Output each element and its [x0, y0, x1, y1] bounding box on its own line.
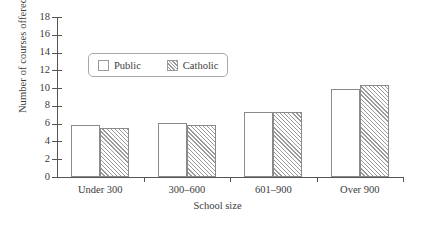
- bar-chart: Number of courses offered 02468101214161…: [0, 0, 435, 226]
- y-axis-line: [57, 17, 58, 178]
- y-axis-tick: [52, 141, 62, 142]
- bar-catholic-1: [187, 125, 216, 177]
- bar-catholic-3: [360, 85, 389, 177]
- bar-public-3: [331, 89, 360, 177]
- y-axis-tick: [52, 177, 62, 178]
- legend-label: Catholic: [183, 60, 219, 71]
- y-axis-tick: [52, 88, 62, 89]
- y-axis-tick-label: 4: [24, 134, 50, 148]
- y-axis-tick: [52, 17, 62, 18]
- y-axis-tick-label: 12: [24, 63, 50, 77]
- y-axis-tick: [52, 106, 62, 107]
- hatched-box-icon: [167, 60, 178, 71]
- y-axis-tick-label: 0: [24, 170, 50, 184]
- y-axis-tick-label: 10: [24, 81, 50, 95]
- y-axis-tick: [52, 159, 62, 160]
- x-axis-category-label: 300–600: [168, 184, 205, 195]
- x-axis-category-label: 601–900: [255, 184, 292, 195]
- x-axis-title: School size: [0, 200, 435, 211]
- empty-box-icon: [98, 60, 109, 71]
- x-axis-category-label: Over 900: [340, 184, 379, 195]
- y-axis-tick: [52, 35, 62, 36]
- y-axis-tick: [52, 124, 62, 125]
- bar-public-2: [244, 112, 273, 177]
- x-axis-tick: [230, 177, 231, 182]
- chart-legend: PublicCatholic: [88, 53, 228, 77]
- bar-catholic-0: [100, 128, 129, 177]
- x-axis-tick: [144, 177, 145, 182]
- y-axis-tick: [52, 70, 62, 71]
- bar-catholic-2: [273, 112, 302, 177]
- x-axis-tick: [317, 177, 318, 182]
- bar-public-1: [158, 123, 187, 177]
- legend-entry-catholic: Catholic: [167, 60, 219, 71]
- x-axis-category-label: Under 300: [78, 184, 123, 195]
- legend-label: Public: [114, 60, 141, 71]
- legend-entry-public: Public: [98, 60, 141, 71]
- bar-public-0: [71, 125, 100, 177]
- y-axis-tick: [52, 53, 62, 54]
- y-axis-tick-label: 2: [24, 152, 50, 166]
- y-axis-tick-label: 6: [24, 116, 50, 130]
- y-axis-tick-label: 16: [24, 27, 50, 41]
- y-axis-tick-label: 14: [24, 45, 50, 59]
- plot-area: 024681012141618 Under 300300–600601–900O…: [57, 17, 403, 177]
- y-axis-tick-label: 18: [24, 10, 50, 24]
- y-axis-tick-label: 8: [24, 98, 50, 112]
- x-axis-tick: [403, 177, 404, 182]
